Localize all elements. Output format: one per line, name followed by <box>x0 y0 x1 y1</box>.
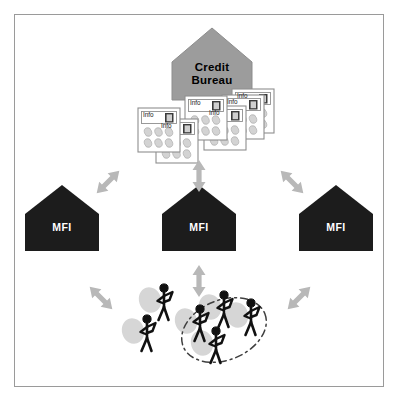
arrow-left-mfi-to-clients <box>85 282 117 314</box>
arrow-right-mfi-to-clients <box>283 282 315 314</box>
arrow-right-mfi-to-bureau <box>276 166 308 198</box>
info-cards-cluster <box>138 89 274 163</box>
client-figure <box>158 284 173 320</box>
client-figure <box>210 327 225 363</box>
arrow-left-mfi-to-bureau <box>92 166 124 198</box>
client-shadows <box>119 284 252 359</box>
client-figure <box>141 315 156 351</box>
info-card <box>138 108 180 152</box>
mfi-house-left <box>25 185 99 251</box>
diagram-graphics <box>0 0 398 414</box>
mfi-house-center <box>162 185 236 251</box>
diagram-canvas: Credit Bureau MFI MFI MFI Info Info Info… <box>0 0 398 414</box>
arrow-center-mfi-to-clients <box>193 265 206 297</box>
arrow-center-mfi-to-bureau <box>193 160 206 192</box>
mfi-house-right <box>299 185 373 251</box>
